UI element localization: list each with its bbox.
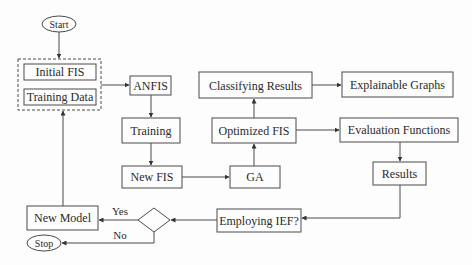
classifying-results-label: Classifying Results — [209, 79, 302, 93]
edge-decision-no-to-stop — [62, 232, 154, 243]
training-data-label: Training Data — [27, 90, 94, 104]
employing-ief-label: Employing IEF? — [219, 214, 299, 228]
results-label: Results — [382, 167, 418, 181]
explainable-graphs-label: Explainable Graphs — [350, 78, 445, 92]
yes-edge-label: Yes — [112, 205, 128, 217]
training-label: Training — [131, 124, 172, 138]
new-fis-label: New FIS — [130, 170, 173, 184]
initial-fis-label: Initial FIS — [35, 65, 84, 79]
no-edge-label: No — [113, 229, 127, 241]
start-label: Start — [50, 19, 69, 30]
new-model-label: New Model — [34, 211, 92, 225]
decision-diamond — [138, 208, 170, 232]
ga-label: GA — [246, 170, 264, 184]
flowchart-canvas: Start Initial FIS Training Data ANFIS Tr… — [0, 0, 472, 265]
optimized-fis-label: Optimized FIS — [219, 124, 290, 138]
edge-results-to-employing — [302, 185, 400, 218]
stop-label: Stop — [35, 238, 53, 249]
evaluation-functions-label: Evaluation Functions — [348, 123, 451, 137]
anfis-label: ANFIS — [133, 79, 168, 93]
